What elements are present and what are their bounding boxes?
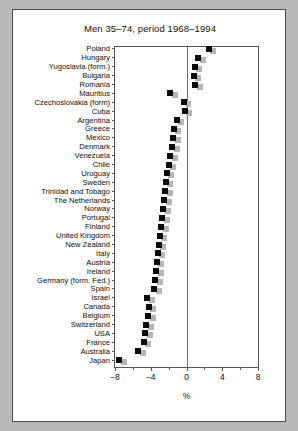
y-axis-label-austria: Austria [86, 258, 110, 267]
y-axis-tick [112, 75, 116, 76]
y-axis-tick [112, 155, 116, 156]
y-axis-tick [112, 200, 116, 201]
y-axis-tick [112, 48, 116, 49]
y-axis-tick [112, 333, 116, 334]
data-row: Belgium [115, 314, 258, 323]
y-axis-label-france: France [86, 338, 110, 347]
y-axis-tick [112, 217, 116, 218]
y-axis-label-canada: Canada [83, 302, 110, 311]
y-axis-tick [112, 173, 116, 174]
y-axis-tick [112, 182, 116, 183]
data-row: Yugoslavia (form.) [115, 65, 258, 74]
data-row: Japan [115, 358, 258, 367]
y-axis-label-cuba: Cuba [92, 107, 110, 116]
data-row: Israel [115, 296, 258, 305]
y-axis-tick [112, 137, 116, 138]
y-axis-tick [112, 315, 116, 316]
x-tick-major [151, 367, 152, 371]
y-axis-tick [112, 342, 116, 343]
y-axis-tick [112, 164, 116, 165]
x-tick-minor [240, 367, 241, 370]
y-axis-tick [112, 66, 116, 67]
y-axis-label-israel: Israel [91, 293, 110, 302]
y-axis-tick [112, 235, 116, 236]
data-row: The Netherlands [115, 198, 258, 207]
y-axis-label-australia: Australia [80, 347, 110, 356]
y-axis-tick [112, 84, 116, 85]
data-marker [146, 304, 152, 310]
data-row: Italy [115, 251, 258, 260]
y-axis-label-spain: Spain [91, 284, 110, 293]
y-axis-label-new-zealand: New Zealand [65, 240, 110, 249]
y-axis-tick [112, 324, 116, 325]
y-axis-label-italy: Italy [96, 249, 110, 258]
data-marker [161, 197, 167, 203]
y-axis-label-portugal: Portugal [82, 213, 110, 222]
data-marker [170, 135, 176, 141]
y-axis-tick [112, 208, 116, 209]
data-row: Chile [115, 163, 258, 172]
data-marker [141, 339, 147, 345]
y-axis-tick [112, 191, 116, 192]
y-axis-label-norway: Norway [84, 204, 110, 213]
y-axis-label-argentina: Argentina [77, 116, 110, 125]
chart-title: Men 35–74, period 1968–1994 [13, 23, 287, 34]
y-axis-tick [112, 128, 116, 129]
data-row: Mexico [115, 136, 258, 145]
data-marker [181, 99, 187, 105]
data-row: Romania [115, 83, 258, 92]
data-row: Greece [115, 127, 258, 136]
x-tick-major [187, 367, 188, 371]
y-axis-label-united-kingdom: United Kingdom [56, 231, 110, 240]
y-axis-label-japan: Japan [89, 356, 110, 365]
data-marker [195, 55, 201, 61]
data-marker [144, 295, 150, 301]
data-row: Germany (form. Fed.) [115, 278, 258, 287]
data-row: Venezuela [115, 154, 258, 163]
y-axis-tick [112, 288, 116, 289]
data-row: Switzerland [115, 323, 258, 332]
data-row: Sweden [115, 180, 258, 189]
y-axis-label-denmark: Denmark [79, 142, 110, 151]
y-axis-label-trinidad-and-tobago: Trinidad and Tobago [41, 187, 110, 196]
data-marker [191, 73, 197, 79]
y-axis-tick [112, 351, 116, 352]
data-marker [164, 170, 170, 176]
y-axis-label-greece: Greece [85, 124, 110, 133]
data-marker [163, 179, 169, 185]
y-axis-tick [112, 102, 116, 103]
x-tick-major [222, 367, 223, 371]
x-tick-major [115, 367, 116, 371]
data-marker [192, 82, 198, 88]
data-marker [158, 224, 164, 230]
data-marker [160, 206, 166, 212]
data-row: Argentina [115, 118, 258, 127]
data-marker [171, 126, 177, 132]
y-axis-label-ireland: Ireland [87, 267, 110, 276]
x-tick-label: −8 [110, 372, 120, 382]
y-axis-label-uruguay: Uruguay [81, 169, 110, 178]
data-row: Australia [115, 349, 258, 358]
data-row: Denmark [115, 145, 258, 154]
y-axis-label-finland: Finland [85, 222, 110, 231]
y-axis-tick [112, 57, 116, 58]
y-axis-tick [112, 120, 116, 121]
data-marker [167, 90, 173, 96]
y-axis-tick [112, 360, 116, 361]
x-tick-label: 8 [256, 372, 261, 382]
y-axis-label-bulgaria: Bulgaria [82, 71, 110, 80]
y-axis-label-mexico: Mexico [86, 133, 110, 142]
data-row: Portugal [115, 216, 258, 225]
data-marker [142, 330, 148, 336]
y-axis-label-venezuela: Venezuela [75, 151, 110, 160]
data-row: Finland [115, 225, 258, 234]
data-marker [162, 188, 168, 194]
y-axis-tick [112, 244, 116, 245]
data-marker [206, 46, 212, 52]
y-axis-tick [112, 146, 116, 147]
data-row: Ireland [115, 269, 258, 278]
data-marker [169, 144, 175, 150]
x-tick-label: 0 [184, 372, 189, 382]
y-axis-tick [112, 262, 116, 263]
x-axis-title: % [114, 391, 259, 401]
